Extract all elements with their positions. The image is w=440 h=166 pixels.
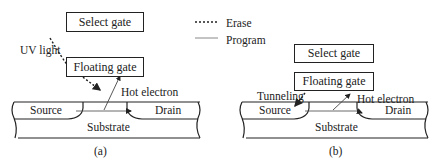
panel-b-source-label: Source xyxy=(259,104,291,116)
panel-b-drain-label: Drain xyxy=(385,104,411,116)
panel-a-hot-electron-label: Hot electron xyxy=(121,86,178,98)
panel-b-substrate-label: Substrate xyxy=(315,121,358,133)
panel-a-drain-label: Drain xyxy=(155,104,181,116)
panel-a-floating-gate: Floating gate xyxy=(66,57,144,77)
panel-a-source-label: Source xyxy=(30,104,62,116)
panel-b-floating-gate: Floating gate xyxy=(294,72,374,91)
panel-a-substrate-label: Substrate xyxy=(87,121,130,133)
panel-a-select-gate: Select gate xyxy=(66,12,144,32)
legend-erase-label: Erase xyxy=(226,17,252,29)
panel-a-caption: (a) xyxy=(94,145,107,157)
uv-light-label: UV light xyxy=(20,44,60,56)
legend-program-label: Program xyxy=(226,34,266,46)
panel-a-hot-electron-arrow xyxy=(104,76,120,110)
panel-b-select-gate: Select gate xyxy=(294,44,374,63)
panel-b-caption: (b) xyxy=(329,145,342,157)
tunneling-label: Tunneling xyxy=(257,90,304,102)
